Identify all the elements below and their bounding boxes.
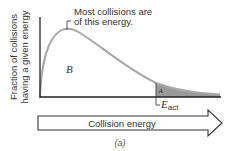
peak-annotation-line2: of this energy. — [74, 16, 133, 27]
shaded-region-a — [156, 83, 220, 97]
y-axis-label-line2: having a given energy — [19, 10, 30, 103]
y-axis-label: Fraction of collisions having a given en… — [8, 10, 30, 103]
energy-distribution-diagram: Fraction of collisions having a given en… — [0, 0, 235, 151]
panel-label: (a) — [115, 138, 126, 148]
activation-energy-label: Eact — [160, 98, 179, 112]
collision-energy-label: Collision energy — [88, 118, 156, 129]
y-axis-label-line1: Fraction of collisions — [8, 14, 19, 100]
region-a-label: A — [158, 87, 164, 95]
region-b-label: B — [66, 63, 73, 75]
